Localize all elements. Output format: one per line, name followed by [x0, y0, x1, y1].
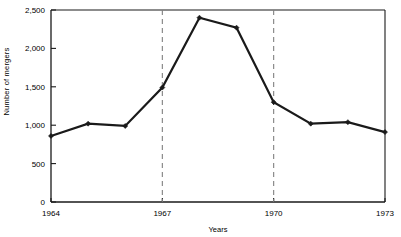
- y-tick-label: 2,000: [25, 44, 46, 53]
- x-tick-label: 1970: [265, 209, 283, 218]
- x-axis-ticks: 1964196719701973: [42, 198, 394, 218]
- x-tick-label: 1967: [153, 209, 171, 218]
- y-tick-label: 2,500: [25, 6, 46, 15]
- y-tick-label: 500: [32, 160, 46, 169]
- data-point-marker: [345, 120, 350, 125]
- series-line: [51, 18, 385, 136]
- data-point-marker: [383, 130, 388, 135]
- y-axis-title: Number of mergers: [2, 0, 16, 200]
- y-tick-label: 1,500: [25, 83, 46, 92]
- x-tick-label: 1964: [42, 209, 60, 218]
- chart-canvas: 05001,0001,5002,0002,500 196419671970197…: [0, 0, 401, 237]
- data-point-marker: [86, 121, 91, 126]
- merger-line-chart: Number of mergers 05001,0001,5002,0002,5…: [0, 0, 401, 237]
- y-tick-label: 1,000: [25, 121, 46, 130]
- data-series: [49, 15, 388, 138]
- x-tick-label: 1973: [376, 209, 394, 218]
- reference-lines: [162, 10, 273, 202]
- plot-frame: [51, 10, 385, 202]
- data-point-marker: [49, 133, 54, 138]
- y-tick-label: 0: [41, 198, 46, 207]
- x-axis-title: Years: [209, 225, 228, 234]
